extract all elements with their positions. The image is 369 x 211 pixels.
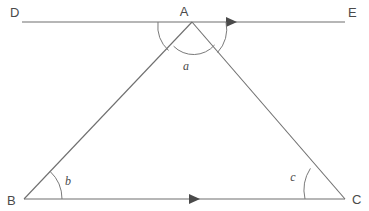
angle-arc-b <box>50 171 62 199</box>
angle-label-a: a <box>183 59 189 73</box>
angle-arc-cae <box>218 22 227 53</box>
vertex-label-c: C <box>352 192 361 207</box>
angle-label-b: b <box>65 174 71 188</box>
segment-ac <box>192 22 345 199</box>
geometry-diagram: D A E B C a b c <box>0 0 369 211</box>
angle-arc-dab <box>158 22 169 51</box>
angle-arc-a <box>174 45 215 55</box>
angle-arc-c <box>304 168 310 199</box>
vertex-label-d: D <box>10 5 19 20</box>
diagram-canvas: D A E B C a b c <box>0 0 369 211</box>
direction-arrow-de-icon <box>226 17 237 27</box>
angle-label-c: c <box>290 170 296 184</box>
vertex-label-e: E <box>348 5 357 20</box>
vertex-label-b: B <box>7 193 16 208</box>
vertex-label-a: A <box>180 4 189 19</box>
direction-arrow-bc-icon <box>189 194 200 204</box>
